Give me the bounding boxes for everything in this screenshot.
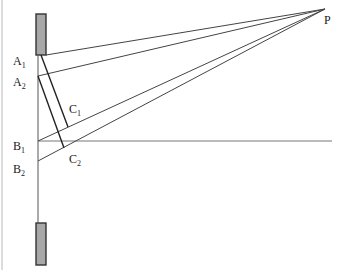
- ray-p-b2: [38, 9, 325, 161]
- ray-p-b1: [38, 9, 325, 141]
- label-c1: C1: [69, 102, 81, 118]
- label-p: P: [324, 13, 331, 27]
- label-a1: A1: [13, 54, 26, 70]
- label-b1: B1: [13, 139, 25, 155]
- ray-p-a2: [38, 9, 325, 76]
- bottom-block: [36, 223, 46, 265]
- label-c2: C2: [69, 152, 81, 168]
- top-block: [36, 14, 46, 55]
- mirror-line-c2: [38, 76, 64, 148]
- ray-p-a1: [46, 9, 325, 55]
- label-a2: A2: [13, 75, 26, 91]
- label-b2: B2: [13, 162, 25, 178]
- optics-diagram: A1 A2 B1 B2 C1 C2 P: [0, 0, 337, 270]
- mirror-line-c1: [41, 55, 68, 127]
